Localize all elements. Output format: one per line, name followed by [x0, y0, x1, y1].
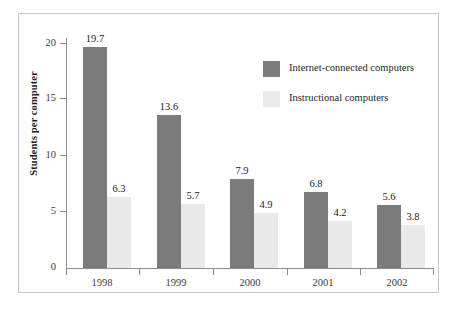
bar-2001-internet[interactable] [304, 192, 328, 268]
x-tick-label-2000: 2000 [220, 278, 280, 289]
x-tick-mark-1 [139, 269, 140, 275]
bar-label-1998-instructional: 6.3 [99, 184, 139, 195]
bar-label-1999-internet: 13.6 [149, 102, 189, 113]
x-tick-label-2002: 2002 [367, 278, 427, 289]
bar-2002-instructional[interactable] [401, 225, 425, 268]
bar-label-1999-instructional: 5.7 [173, 191, 213, 202]
x-tick-mark-3 [287, 269, 288, 275]
legend-label-instructional: Instructional computers [289, 92, 388, 105]
legend-swatch-icon-internet [263, 61, 280, 77]
bar-label-1998-internet: 19.7 [75, 34, 115, 45]
x-tick-mark-2 [213, 269, 214, 275]
legend-item-instructional[interactable]: Instructional computers [263, 89, 435, 111]
y-tick-5: 5 [22, 206, 56, 218]
y-tick-label-10: 10 [26, 150, 56, 161]
x-tick-mark-4 [360, 269, 361, 275]
chart-figure: Students per computer 20 15 10 5 0 1998 … [0, 0, 459, 311]
y-tick-15: 15 [22, 93, 56, 105]
bar-1998-instructional[interactable] [107, 197, 131, 268]
bar-label-2000-internet: 7.9 [222, 166, 262, 177]
x-tick-label-1998: 1998 [72, 278, 132, 289]
x-tick-mark-0 [66, 269, 67, 275]
chart-legend: Internet-connected computers Instruction… [263, 59, 435, 119]
y-tick-20: 20 [22, 38, 56, 50]
bar-1999-instructional[interactable] [181, 204, 205, 268]
bar-label-2002-instructional: 3.8 [393, 212, 433, 223]
y-tick-10: 10 [22, 150, 56, 162]
y-tick-label-5: 5 [26, 206, 56, 217]
x-tick-label-2001: 2001 [293, 278, 353, 289]
bar-2000-internet[interactable] [230, 179, 254, 268]
bar-1998-internet[interactable] [83, 47, 107, 268]
bar-2001-instructional[interactable] [328, 221, 352, 268]
y-tick-label-20: 20 [26, 38, 56, 49]
y-tick-0: 0 [22, 262, 56, 274]
legend-item-internet[interactable]: Internet-connected computers [263, 59, 435, 81]
y-tick-label-15: 15 [26, 93, 56, 104]
legend-label-internet: Internet-connected computers [289, 62, 414, 75]
legend-swatch-icon-instructional [263, 91, 280, 107]
y-tick-label-0: 0 [26, 262, 56, 273]
x-tick-label-1999: 1999 [146, 278, 206, 289]
y-axis-title: Students per computer [28, 29, 39, 219]
bar-label-2000-instructional: 4.9 [246, 200, 286, 211]
bar-label-2002-internet: 5.6 [369, 192, 409, 203]
bar-label-2001-internet: 6.8 [296, 179, 336, 190]
x-axis-line [66, 268, 434, 269]
bar-2000-instructional[interactable] [254, 213, 278, 268]
x-tick-mark-5 [433, 269, 434, 275]
bar-label-2001-instructional: 4.2 [320, 208, 360, 219]
